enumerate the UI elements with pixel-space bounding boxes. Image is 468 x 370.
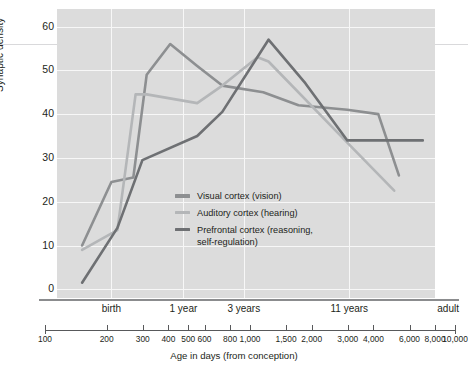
y-axis-tick-label: 50 bbox=[28, 63, 54, 75]
x-axis-tick-label: 1,500 bbox=[276, 334, 297, 344]
x-axis-tick-label: 1,000 bbox=[240, 334, 261, 344]
legend-item: Visual cortex (vision) bbox=[175, 190, 313, 202]
legend-item: Prefrontal cortex (reasoning, self-regul… bbox=[175, 224, 313, 249]
ruler-tick bbox=[188, 325, 189, 331]
y-axis-title: Synaptic density bbox=[0, 0, 5, 92]
legend-swatch bbox=[175, 211, 190, 215]
y-axis-tick-label: 0 bbox=[28, 282, 54, 294]
era-label: adult bbox=[437, 303, 459, 314]
era-label: birth bbox=[102, 303, 121, 314]
x-axis-tick-label: 400 bbox=[161, 334, 175, 344]
synaptic-density-chart: Synaptic density 0102030405060 Visual co… bbox=[0, 0, 468, 370]
y-axis-tick-label: 30 bbox=[28, 151, 54, 163]
legend-item: Auditory cortex (hearing) bbox=[175, 207, 313, 219]
y-axis-tick-label: 60 bbox=[28, 20, 54, 32]
x-axis-tick-label: 3,000 bbox=[337, 334, 358, 344]
y-axis-tick-label: 10 bbox=[28, 239, 54, 251]
ruler-tick bbox=[250, 325, 251, 331]
ruler-tick bbox=[348, 325, 349, 331]
legend-swatch bbox=[175, 194, 190, 198]
legend-swatch bbox=[175, 228, 190, 232]
ruler-tick bbox=[312, 325, 313, 331]
y-axis-tick-label: 20 bbox=[28, 195, 54, 207]
x-axis-tick-label: 500 bbox=[181, 334, 195, 344]
x-axis-title: Age in days (from conception) bbox=[0, 350, 468, 361]
legend-label: Auditory cortex (hearing) bbox=[197, 207, 298, 219]
era-label: 3 years bbox=[227, 303, 260, 314]
x-axis-tick-label: 600 bbox=[198, 334, 212, 344]
x-axis-tick-label: 200 bbox=[100, 334, 114, 344]
legend: Visual cortex (vision)Auditory cortex (h… bbox=[175, 190, 313, 253]
ruler-tick bbox=[286, 325, 287, 331]
x-axis-era-labels: birth1 year3 years11 yearsadult bbox=[0, 303, 468, 317]
x-axis-tick-label: 2,000 bbox=[301, 334, 322, 344]
ruler-tick bbox=[168, 325, 169, 331]
ruler-tick bbox=[230, 325, 231, 331]
ruler-tick bbox=[373, 325, 374, 331]
ruler-tick bbox=[45, 325, 46, 334]
legend-label: Visual cortex (vision) bbox=[197, 190, 282, 202]
x-axis-tick-labels: 1002003004005006008001,0001,5002,0003,00… bbox=[0, 334, 468, 346]
series-lines bbox=[57, 9, 435, 298]
x-axis-tick-label: 800 bbox=[223, 334, 237, 344]
y-axis-tick-label: 40 bbox=[28, 107, 54, 119]
era-label: 1 year bbox=[169, 303, 197, 314]
x-axis-tick-label: 4,000 bbox=[363, 334, 384, 344]
x-axis-tick-label: 6,000 bbox=[399, 334, 420, 344]
ruler-tick bbox=[410, 325, 411, 331]
ruler-tick bbox=[107, 325, 108, 331]
ruler-tick bbox=[435, 325, 436, 331]
ruler-tick bbox=[455, 325, 456, 334]
legend-label: Prefrontal cortex (reasoning, self-regul… bbox=[197, 224, 313, 249]
ruler-tick bbox=[205, 325, 206, 331]
era-label: 11 years bbox=[330, 303, 368, 314]
x-axis-tick-label: 100 bbox=[38, 334, 52, 344]
x-axis-baseline bbox=[39, 299, 459, 301]
x-axis-tick-label: 300 bbox=[136, 334, 150, 344]
y-axis-ticks: 0102030405060 bbox=[26, 9, 54, 298]
x-axis-tick-label: 10,000 bbox=[442, 334, 468, 344]
ruler-tick bbox=[143, 325, 144, 331]
